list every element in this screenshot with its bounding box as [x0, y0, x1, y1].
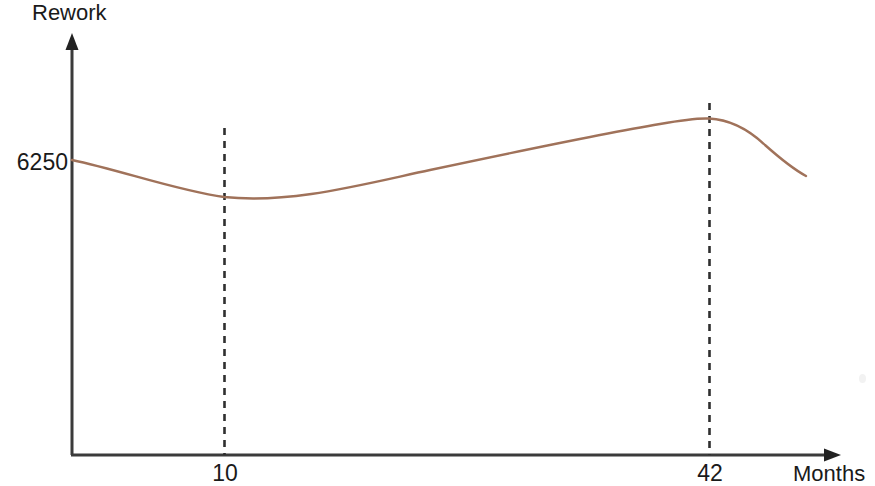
y-axis-arrowhead	[66, 33, 79, 50]
chart-graphics	[0, 0, 875, 486]
scan-artifact-speck	[859, 374, 866, 383]
chart-canvas: Rework 6250 10 42 Months	[0, 0, 875, 486]
y-axis-title: Rework	[32, 2, 107, 24]
y-axis	[66, 33, 79, 455]
x-axis-arrowhead	[824, 449, 841, 462]
x-axis-tick-label-10: 10	[185, 462, 265, 485]
y-axis-tick-label-6250: 6250	[0, 151, 68, 174]
rework-curve-line	[72, 118, 806, 198]
x-axis-tick-label-42: 42	[670, 462, 750, 485]
x-axis	[71, 449, 841, 462]
x-axis-title: Months	[793, 463, 865, 485]
